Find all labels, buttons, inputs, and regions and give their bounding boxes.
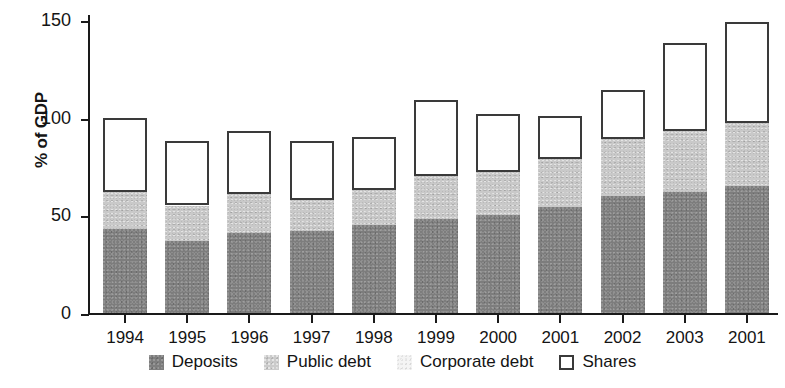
legend-item-label: Deposits bbox=[172, 352, 238, 372]
legend-item[interactable]: Shares bbox=[559, 352, 636, 372]
bar-segment-public-debt bbox=[601, 139, 645, 196]
bar-segment-public-debt bbox=[290, 200, 334, 231]
y-axis-tick: 150 bbox=[81, 21, 89, 23]
bar-segment-shares bbox=[227, 131, 271, 194]
bar-segment-public-debt bbox=[414, 176, 458, 219]
bar-segment-public-debt bbox=[352, 190, 396, 225]
y-axis-tick-label: 100 bbox=[41, 108, 71, 129]
bar-segment-deposits bbox=[352, 225, 396, 313]
legend-item[interactable]: Public debt bbox=[264, 352, 371, 372]
bar-segment-shares bbox=[601, 90, 645, 139]
bar-segment-shares bbox=[414, 100, 458, 176]
bar-segment-deposits bbox=[290, 231, 334, 313]
bar-group[interactable] bbox=[290, 10, 334, 313]
bar-segment-public-debt bbox=[227, 194, 271, 233]
legend-item[interactable]: Corporate debt bbox=[397, 352, 533, 372]
x-axis-tick bbox=[684, 314, 686, 323]
legend-item-label: Corporate debt bbox=[420, 352, 533, 372]
x-axis-tick-label: 1996 bbox=[218, 328, 280, 348]
bar-segment-deposits bbox=[601, 196, 645, 313]
y-axis-tick-label: 150 bbox=[41, 10, 71, 31]
bar-segment-public-debt bbox=[538, 159, 582, 208]
bar-segment-shares bbox=[352, 137, 396, 190]
x-axis-tick bbox=[435, 314, 437, 323]
x-axis-tick bbox=[124, 314, 126, 323]
x-axis-tick-label: 2001 bbox=[529, 328, 591, 348]
y-axis-tick: 50 bbox=[81, 216, 89, 218]
bar-segment-deposits bbox=[103, 229, 147, 313]
x-axis-tick bbox=[559, 314, 561, 323]
x-axis-tick bbox=[746, 314, 748, 323]
legend-swatch-icon bbox=[397, 355, 412, 370]
legend-swatch-icon bbox=[149, 355, 164, 370]
x-axis-tick bbox=[497, 314, 499, 323]
x-axis-tick-label: 2000 bbox=[467, 328, 529, 348]
bar-segment-deposits bbox=[538, 207, 582, 313]
bar-group[interactable] bbox=[103, 10, 147, 313]
x-axis-tick bbox=[186, 314, 188, 323]
y-axis-title: % of GDP bbox=[32, 40, 52, 220]
chart-legend: DepositsPublic debtCorporate debtShares bbox=[0, 352, 785, 372]
bar-segment-deposits bbox=[663, 192, 707, 313]
bar-segment-deposits bbox=[725, 186, 769, 313]
y-axis-tick: 0 bbox=[81, 314, 89, 316]
bar-segment-public-debt bbox=[663, 131, 707, 192]
bar-segment-shares bbox=[165, 141, 209, 206]
bar-group[interactable] bbox=[725, 10, 769, 313]
y-axis-tick: 100 bbox=[81, 119, 89, 121]
y-axis-line bbox=[88, 15, 90, 315]
legend-item-label: Public debt bbox=[287, 352, 371, 372]
bar-segment-deposits bbox=[414, 219, 458, 313]
x-axis-tick-label: 1995 bbox=[156, 328, 218, 348]
chart-figure: % of GDP 050100150 199419951996199719981… bbox=[0, 0, 785, 388]
bar-segment-public-debt bbox=[725, 123, 769, 186]
bar-segment-shares bbox=[103, 118, 147, 192]
bar-segment-shares bbox=[290, 141, 334, 200]
legend-swatch-icon bbox=[264, 355, 279, 370]
bar-segment-shares bbox=[476, 114, 520, 173]
y-axis-tick-label: 0 bbox=[61, 303, 71, 324]
x-axis-tick-label: 2003 bbox=[654, 328, 716, 348]
bar-segment-public-debt bbox=[476, 172, 520, 215]
bar-segment-public-debt bbox=[103, 192, 147, 229]
x-axis-tick bbox=[311, 314, 313, 323]
bar-group[interactable] bbox=[601, 10, 645, 313]
bar-group[interactable] bbox=[227, 10, 271, 313]
x-axis-tick-label: 1999 bbox=[405, 328, 467, 348]
y-axis-tick-label: 50 bbox=[51, 205, 71, 226]
legend-item-label: Shares bbox=[582, 352, 636, 372]
x-axis-tick-label: 1994 bbox=[94, 328, 156, 348]
bar-group[interactable] bbox=[414, 10, 458, 313]
bar-group[interactable] bbox=[476, 10, 520, 313]
x-axis-tick-label: 2001 bbox=[716, 328, 778, 348]
plot-area: 050100150 199419951996199719981999200020… bbox=[88, 10, 778, 315]
bar-group[interactable] bbox=[538, 10, 582, 313]
x-axis-tick bbox=[373, 314, 375, 323]
legend-swatch-icon bbox=[559, 355, 574, 370]
bar-segment-shares bbox=[538, 116, 582, 159]
x-axis-tick bbox=[622, 314, 624, 323]
bar-segment-shares bbox=[725, 22, 769, 124]
bar-segment-public-debt bbox=[165, 206, 209, 241]
bar-group[interactable] bbox=[165, 10, 209, 313]
x-axis-tick-label: 1998 bbox=[343, 328, 405, 348]
x-axis-tick-label: 2002 bbox=[591, 328, 653, 348]
bar-segment-shares bbox=[663, 43, 707, 131]
bar-segment-deposits bbox=[476, 215, 520, 313]
bar-segment-deposits bbox=[227, 233, 271, 313]
x-axis-tick-label: 1997 bbox=[281, 328, 343, 348]
bar-group[interactable] bbox=[663, 10, 707, 313]
bar-group[interactable] bbox=[352, 10, 396, 313]
x-axis-line bbox=[88, 313, 778, 315]
x-axis-tick bbox=[248, 314, 250, 323]
legend-item[interactable]: Deposits bbox=[149, 352, 238, 372]
bar-segment-deposits bbox=[165, 241, 209, 313]
